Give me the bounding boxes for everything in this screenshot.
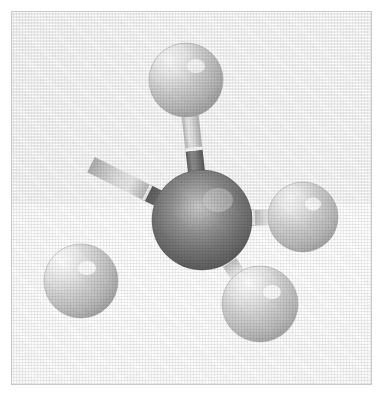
atom-hydrogen-lower-right	[222, 266, 298, 342]
atom-hydrogen-right	[268, 182, 338, 252]
atoms-layer	[44, 43, 338, 342]
atom-carbon-center	[152, 170, 252, 270]
molecule-svg: Ball-and-stick model of a methane molecu…	[0, 0, 386, 399]
atom-hydrogen-top	[149, 43, 223, 117]
figure-root: Ball-and-stick model of a methane molecu…	[0, 0, 386, 399]
atom-hydrogen-lower-left	[44, 244, 118, 318]
molecule-illustration: Ball-and-stick model of a methane molecu…	[0, 0, 386, 399]
